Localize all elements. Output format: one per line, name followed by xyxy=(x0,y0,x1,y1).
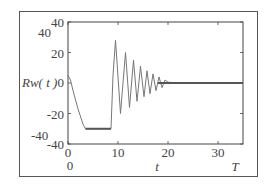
y-tick-m20: -20 xyxy=(47,107,64,122)
y-axis-label: Rw( t ) xyxy=(21,75,57,90)
y-tick-40: 40 xyxy=(51,15,64,30)
chart-svg: 40 20 0 -20 -40 40 -40 0 Rw( t ) 0 10 20… xyxy=(0,0,269,188)
outer-label-m40: -40 xyxy=(31,128,48,143)
outer-label-0: 0 xyxy=(67,158,74,173)
y-tick-20: 20 xyxy=(51,46,64,61)
x-tick-30: 30 xyxy=(212,145,225,160)
x-axis-label: t xyxy=(155,159,159,174)
y-tick-m40: -40 xyxy=(47,137,64,152)
x-tick-20: 20 xyxy=(162,145,175,160)
y-tick-0: 0 xyxy=(58,75,65,90)
outer-label-40: 40 xyxy=(38,25,51,40)
x-end-label: T xyxy=(231,159,239,174)
x-tick-10: 10 xyxy=(112,145,125,160)
x-tick-0: 0 xyxy=(65,145,72,160)
signal-line xyxy=(68,40,243,129)
